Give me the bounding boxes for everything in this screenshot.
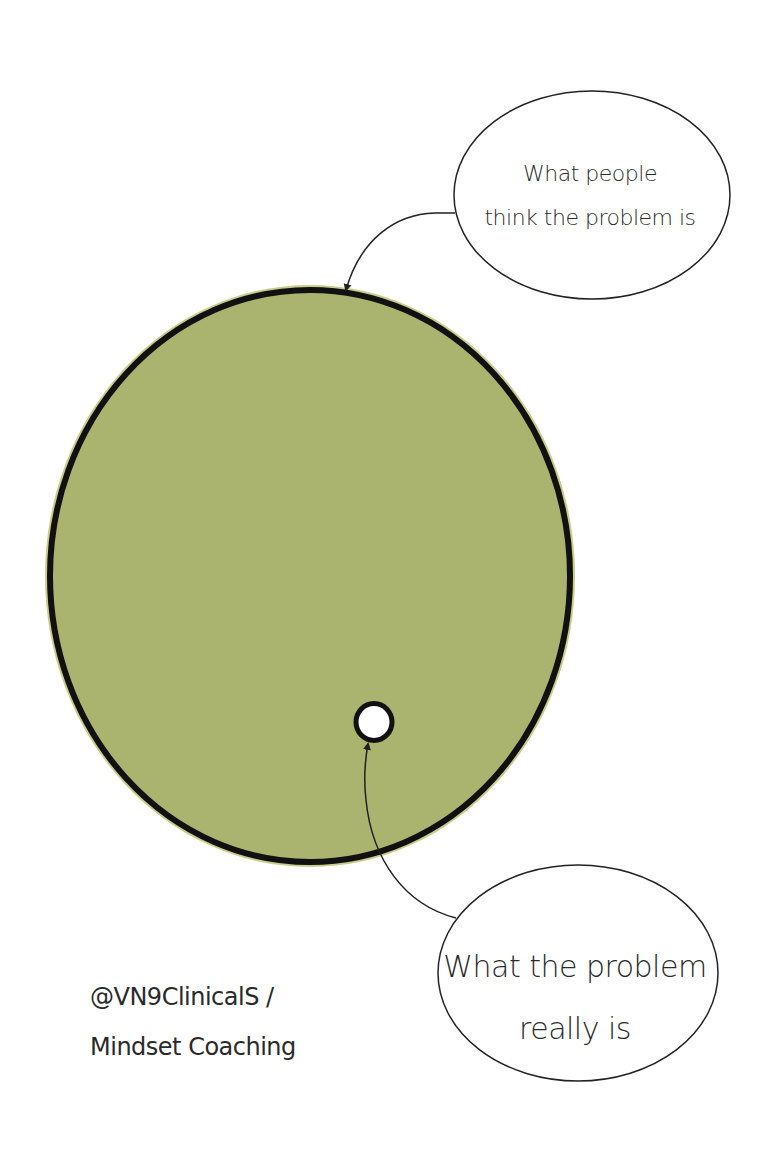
credit-brand: Mindset Coaching bbox=[90, 1022, 350, 1072]
top-connector-arrow bbox=[346, 213, 455, 290]
author-credit: @VN9ClinicalS / Mindset Coaching bbox=[90, 972, 350, 1072]
big-circle-body bbox=[50, 290, 570, 862]
bottom-bubble-label: What the problem really is bbox=[440, 936, 710, 1060]
top-bubble-label: What people think the problem is bbox=[470, 152, 710, 240]
small-circle-body bbox=[356, 704, 392, 741]
credit-handle: @VN9ClinicalS / bbox=[90, 972, 350, 1022]
big-problem-circle bbox=[45, 285, 575, 867]
bottom-bubble-line-1: What the problem bbox=[440, 936, 710, 998]
bottom-bubble-line-2: really is bbox=[440, 998, 710, 1060]
top-bubble-line-1: What people bbox=[470, 152, 710, 196]
small-problem-circle bbox=[356, 704, 392, 741]
top-bubble-line-2: think the problem is bbox=[470, 196, 710, 240]
